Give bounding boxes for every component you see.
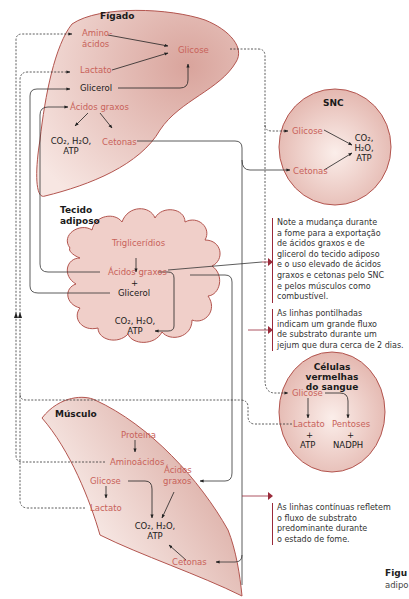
note3-line: o estado de fome. [277, 535, 391, 546]
rbc-nadph: NADPH [333, 440, 363, 450]
rbc-plus-2: + [347, 430, 354, 440]
liver-amino-acids-2: ácidos [82, 39, 109, 49]
rbc-glucose: Glicose [292, 388, 323, 398]
cns-products: CO₂, H₂O, ATP [350, 133, 378, 163]
cns-ketones: Cetonas [293, 166, 328, 176]
liver-shape [37, 10, 239, 196]
note2-line: de substrato durante um [277, 330, 404, 341]
muscle-protein: Proteína [121, 430, 156, 440]
adipose-title-2: adiposo [60, 216, 100, 226]
liver-glucose: Glicose [178, 45, 209, 55]
note-fasting-shift: Note a mudança durante a fome para a exp… [272, 218, 384, 303]
caption-figure-label: Figu [385, 568, 407, 578]
muscle-products-line1: CO₂, H₂O, [132, 521, 178, 531]
adipose-plus: + [131, 278, 138, 288]
liver-products: CO₂, H₂O, ATP [48, 136, 94, 156]
muscle-fatty-acids-2: graxos [163, 476, 192, 486]
muscle-amino-acids: Aminoácidos [110, 457, 164, 467]
rbc-pentoses: Pentoses [332, 419, 370, 429]
muscle-title: Músculo [55, 409, 97, 419]
muscle-glucose: Glicose [90, 476, 121, 486]
note1-line: e pelos músculos como [277, 282, 384, 293]
cns-glucose: Glicose [292, 126, 323, 136]
note2-line: As linhas pontilhadas [277, 309, 404, 320]
adipose-fatty-acids: Ácidos graxos [108, 267, 167, 277]
caption-text: adipo [385, 580, 409, 590]
note1-line: e o uso elevado de ácidos [277, 260, 384, 271]
rbc-atp: ATP [300, 440, 315, 450]
adipose-glycerol: Glicerol [118, 288, 150, 298]
note1-line: graxos e cetonas pelo SNC [277, 271, 384, 282]
cns-products-line2: H₂O, [350, 143, 378, 153]
liver-fatty-acids: Ácidos graxos [70, 102, 129, 112]
adipose-products-line2: ATP [112, 326, 158, 336]
note2-line: indicam um grande fluxo [277, 320, 404, 331]
adipose-products: CO₂, H₂O, ATP [112, 316, 158, 336]
muscle-products-line2: ATP [132, 531, 178, 541]
note-dashed-lines: As linhas pontilhadas indicam um grande … [272, 309, 404, 351]
liver-products-line2: ATP [48, 146, 94, 156]
rbc-title-line1: Células [300, 362, 364, 372]
muscle-products: CO₂, H₂O, ATP [132, 521, 178, 541]
muscle-fatty-acids-1: Ácidos [164, 465, 192, 475]
note3-line: predominante durante [277, 524, 391, 535]
cns-products-line1: CO₂, [350, 133, 378, 143]
rbc-plus-1: + [306, 430, 313, 440]
liver-glycerol: Glicerol [80, 83, 112, 93]
note3-line: o fluxo de substrato [277, 514, 391, 525]
note1-line: Note a mudança durante [277, 218, 384, 229]
liver-title: Fígado [100, 11, 134, 21]
liver-products-line1: CO₂, H₂O, [48, 136, 94, 146]
note1-line: a fome para a exportação [277, 229, 384, 240]
muscle-shape [42, 397, 242, 596]
rbc-title-line2: vermelhas [300, 372, 364, 382]
muscle-lactate: Lactato [90, 503, 122, 513]
liver-amino-acids-1: Amino- [82, 28, 112, 38]
adipose-title-1: Tecido [60, 205, 92, 215]
note1-line: glicerol do tecido adiposo [277, 250, 384, 261]
note2-line: jejum que dura cerca de 2 dias. [277, 341, 404, 352]
cns-products-line3: ATP [350, 153, 378, 163]
note1-line: de ácidos graxos e de [277, 239, 384, 250]
rbc-lactate: Lactato [293, 419, 325, 429]
note1-line: combustível. [277, 292, 384, 303]
adipose-triglycerides: Triglicerídios [112, 238, 165, 248]
liver-ketones: Cetonas [102, 137, 137, 147]
cns-title: SNC [323, 98, 344, 108]
muscle-ketones: Cetonas [172, 557, 207, 567]
adipose-products-line1: CO₂, H₂O, [112, 316, 158, 326]
liver-lactate: Lactato [80, 65, 112, 75]
note-solid-lines: As linhas contínuas refletem o fluxo de … [272, 503, 391, 545]
note3-line: As linhas contínuas refletem [277, 503, 391, 514]
